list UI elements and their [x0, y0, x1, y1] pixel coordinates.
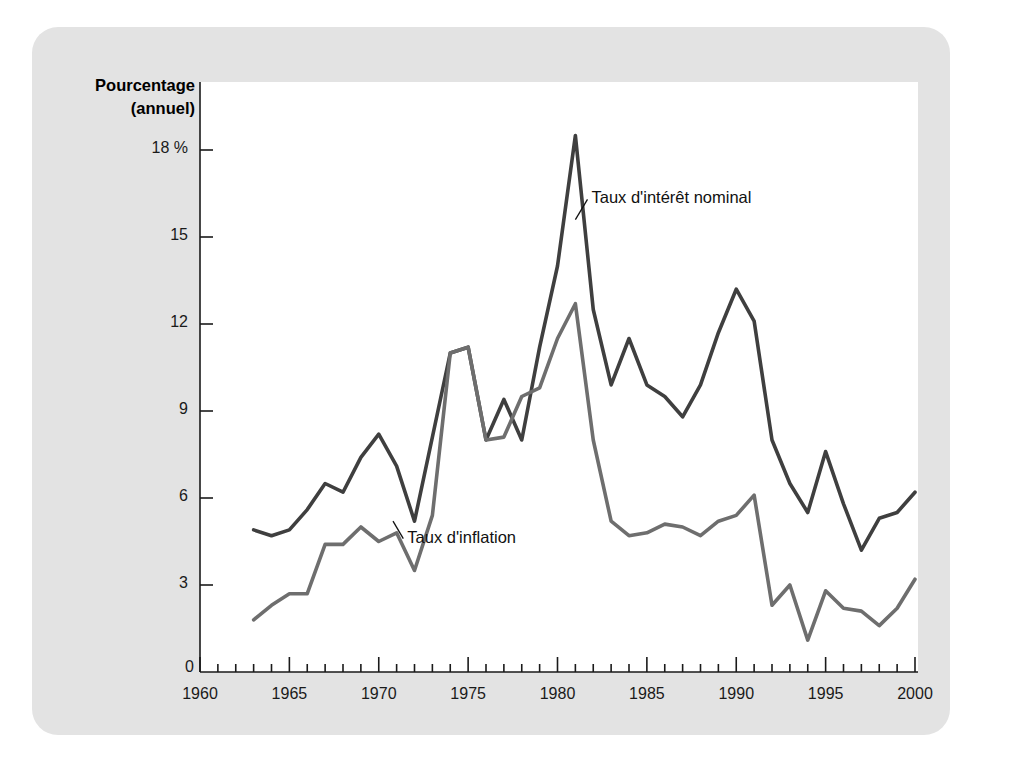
plot-background	[200, 82, 918, 672]
x-tick-label: 1960	[165, 685, 235, 703]
figure-card: Pourcentage (annuel) 0369121518 % 196019…	[32, 27, 950, 735]
line-chart	[32, 27, 950, 735]
y-tick-label: 18 %	[128, 139, 188, 157]
y-axis-title-line2: (annuel)	[40, 97, 195, 120]
y-tick-label: 0	[134, 658, 194, 676]
y-tick-label: 9	[128, 400, 188, 418]
x-tick-label: 1975	[433, 685, 503, 703]
x-tick-label: 2000	[880, 685, 950, 703]
x-tick-label: 1995	[791, 685, 861, 703]
series-label-1: Taux d'intérêt nominal	[591, 188, 751, 207]
y-tick-label: 6	[128, 487, 188, 505]
y-tick-label: 15	[128, 226, 188, 244]
x-tick-label: 1965	[254, 685, 324, 703]
y-tick-label: 3	[128, 574, 188, 592]
x-tick-label: 1990	[701, 685, 771, 703]
y-tick-label: 12	[128, 313, 188, 331]
y-axis-title-line1: Pourcentage	[40, 74, 195, 97]
x-tick-label: 1980	[523, 685, 593, 703]
x-tick-label: 1970	[344, 685, 414, 703]
x-tick-label: 1985	[612, 685, 682, 703]
chart-plot-area: Pourcentage (annuel) 0369121518 % 196019…	[32, 27, 950, 735]
series-label-2: Taux d'inflation	[407, 528, 516, 547]
